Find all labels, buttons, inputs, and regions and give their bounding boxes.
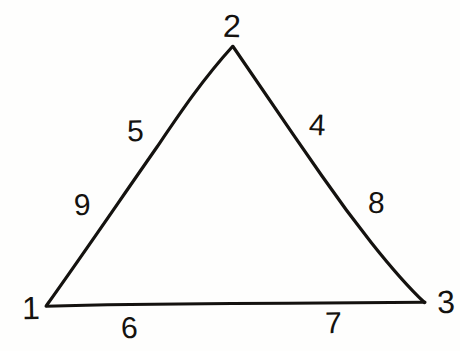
triangle-figure [0,0,460,351]
vertex-label-2: 2 [223,10,242,42]
edge-label-7: 7 [325,308,342,338]
triangle-edge-bottom [46,302,425,306]
edge-label-4: 4 [308,110,326,141]
vertex-label-1: 1 [22,292,40,324]
figure-canvas: 1 2 3 9 5 4 8 6 7 [0,0,460,351]
edge-label-5: 5 [127,116,144,146]
edge-label-8: 8 [368,188,385,218]
triangle-edge-right [233,47,425,303]
edge-label-6: 6 [120,313,138,344]
vertex-label-3: 3 [436,286,455,319]
triangle-edge-left [47,47,233,306]
edge-label-9: 9 [73,190,91,221]
